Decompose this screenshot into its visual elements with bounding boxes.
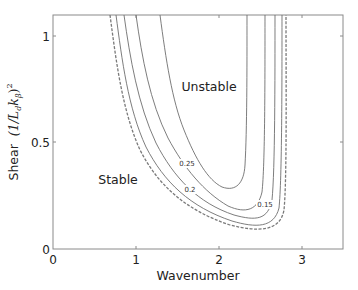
svg-text:Shear (1/Ldkβ)2: Shear (1/Ldkβ)2	[5, 83, 23, 180]
xtick-label-1: 1	[132, 253, 140, 267]
xtick-label-3: 3	[298, 253, 306, 267]
ytick-label-0.5: 0.5	[31, 136, 50, 150]
contour-label-0.15: 0.15	[257, 201, 273, 209]
plot-frame	[53, 15, 343, 249]
contour-label-0.2: 0.2	[184, 186, 195, 194]
ytick-label-1: 1	[42, 30, 50, 44]
x-axis-label: Wavenumber	[156, 268, 240, 283]
ytick-label-0: 0	[42, 243, 50, 257]
y-axis-label: Shear (1/Ldkβ)2	[5, 83, 23, 180]
y-axis-label-word: Shear	[6, 143, 21, 180]
contour-chart: 0 1 2 3 0 0.5 1 Wavenumber Shear (1/Ldkβ…	[0, 0, 358, 290]
contour-level-0.15	[124, 15, 275, 218]
contour-level-0.25	[160, 15, 247, 188]
xtick-label-0: 0	[49, 253, 57, 267]
xtick-label-2: 2	[215, 253, 223, 267]
contour-label-0.25: 0.25	[179, 160, 195, 168]
contour-level-0.2	[136, 15, 265, 210]
unstable-region-label: Unstable	[181, 79, 237, 94]
stable-region-label: Stable	[98, 172, 138, 187]
